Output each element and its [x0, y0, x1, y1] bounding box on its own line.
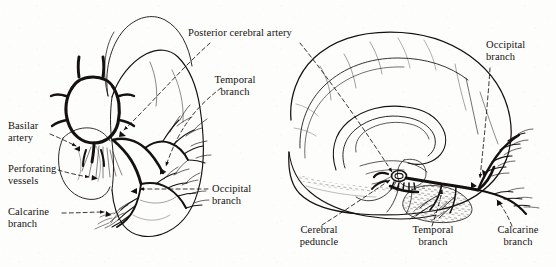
label-basilar-artery: Basilar artery: [8, 120, 38, 143]
label-posterior-cerebral-artery: Posterior cerebral artery: [188, 27, 292, 39]
anatomical-figure: [0, 0, 556, 267]
label-temporal-branch-left: Temporal branch: [206, 74, 264, 97]
label-cerebral-peduncle: Cerebral peduncle: [282, 224, 356, 247]
label-occipital-branch-left: Occipital branch: [212, 183, 251, 206]
left-panel-basal-view: [51, 17, 211, 237]
label-calcarine-branch-left: Calcarine branch: [8, 206, 49, 229]
label-occipital-branch-right: Occipital branch: [486, 39, 525, 62]
label-perforating-vessels: Perforating vessels: [8, 163, 56, 186]
label-temporal-branch-right: Temporal branch: [400, 224, 466, 247]
label-calcarine-branch-right: Calcarine branch: [486, 224, 550, 247]
